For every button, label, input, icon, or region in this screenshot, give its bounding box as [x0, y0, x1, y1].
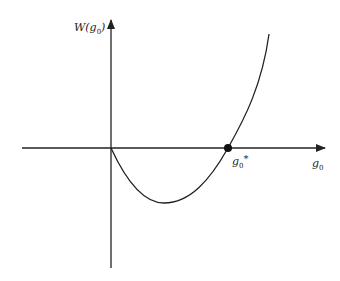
x-axis-label: g0 [312, 157, 324, 172]
root-label: g0* [232, 155, 249, 170]
diagram-canvas [0, 0, 340, 281]
curve-w [111, 34, 269, 203]
root-point [224, 144, 232, 152]
y-axis-label: W(g0) [74, 21, 105, 36]
